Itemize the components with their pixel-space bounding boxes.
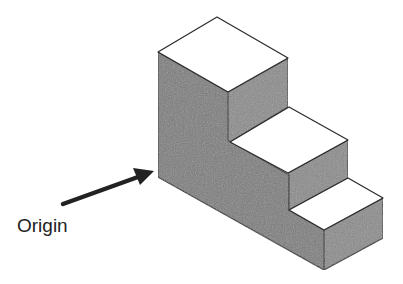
staircase-diagram xyxy=(0,0,403,284)
origin-arrow xyxy=(63,168,154,204)
origin-label: Origin xyxy=(17,216,68,235)
staircase-block xyxy=(158,17,383,270)
